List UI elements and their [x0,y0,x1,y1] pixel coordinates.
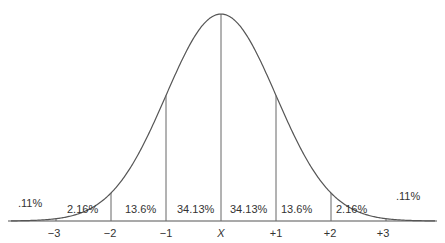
tick-minus3: −3 [48,227,61,239]
tick-mean: X [216,227,225,239]
tick-plus2: +2 [324,227,337,239]
tick-plus1: +1 [270,227,283,239]
tick-minus2: −2 [104,227,117,239]
normal-distribution-chart: .11% 2.16% 13.6% 34.13% 34.13% 13.6% 2.1… [0,0,445,243]
band-label-minus2-minus1: 13.6% [125,203,156,215]
band-label-mean-plus1: 34.13% [230,203,268,215]
band-label-plus1-plus2: 13.6% [281,203,312,215]
bell-curve [11,14,435,221]
standard-deviation-lines [56,14,386,221]
tick-minus1: −1 [160,227,173,239]
band-label-below-minus3: .11% [18,197,42,209]
band-label-minus3-minus2: 2.16% [67,203,98,215]
band-label-minus1-mean: 34.13% [177,203,215,215]
band-label-above-plus3: .11% [396,190,420,202]
tick-plus3: +3 [377,227,390,239]
band-label-plus2-plus3: 2.16% [336,203,367,215]
